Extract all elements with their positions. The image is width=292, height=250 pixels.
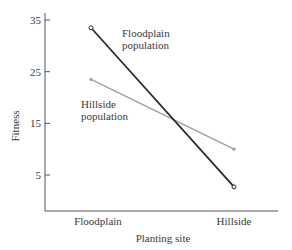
y-tick-label: 15 [30, 117, 42, 129]
y-axis-label: Fitness [9, 110, 21, 141]
x-axis-label: Planting site [136, 232, 191, 244]
y-tick-label: 25 [30, 66, 42, 78]
data-point [89, 78, 92, 81]
y-tick-label: 5 [36, 169, 42, 181]
series-label: population [81, 110, 129, 122]
series-label: Hillside [81, 98, 116, 110]
series-label: Floodplain [122, 27, 170, 39]
data-point [89, 26, 93, 30]
y-ticks: 5152535 [30, 14, 50, 181]
y-tick-label: 35 [30, 14, 42, 26]
x-tick-labels: FloodplainHillside [74, 215, 251, 227]
x-tick-label: Floodplain [74, 215, 122, 227]
chart-canvas: 5152535 FloodplainHillside Floodplainpop… [0, 0, 292, 250]
data-point [232, 148, 235, 151]
series-labels: FloodplainpopulationHillsidepopulation [81, 27, 170, 122]
series-label: population [122, 39, 170, 51]
x-tick-label: Hillside [217, 215, 252, 227]
data-point [232, 185, 236, 189]
